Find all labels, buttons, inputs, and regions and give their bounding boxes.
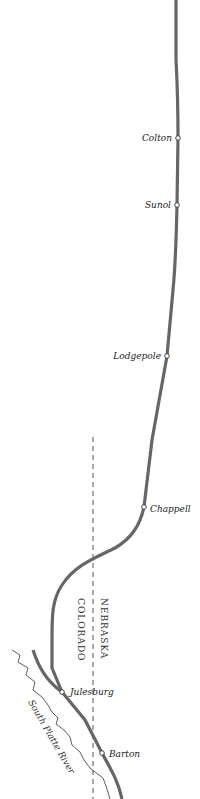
railroad-map: Colton Sunol Lodgepole Chappell Julesbur…: [0, 0, 200, 799]
station-lodgepole[interactable]: Lodgepole: [112, 351, 169, 361]
river-line: [12, 650, 110, 799]
station-marker-icon: [142, 505, 147, 510]
station-marker-icon: [176, 136, 181, 141]
station-colton[interactable]: Colton: [142, 133, 180, 143]
railroad-main-line: [52, 0, 178, 799]
station-chappell[interactable]: Chappell: [142, 504, 191, 514]
town-label-sunol: Sunol: [145, 200, 171, 210]
station-marker-icon: [60, 690, 65, 695]
station-sunol[interactable]: Sunol: [145, 200, 179, 210]
station-marker-icon: [100, 751, 105, 756]
station-julesburg[interactable]: Julesburg: [60, 687, 114, 697]
town-label-chappell: Chappell: [150, 504, 191, 514]
town-label-lodgepole: Lodgepole: [112, 351, 161, 361]
station-marker-icon: [165, 354, 170, 359]
town-label-colton: Colton: [142, 133, 172, 143]
town-label-julesburg: Julesburg: [68, 687, 114, 697]
river-label: South Platte River: [26, 698, 77, 776]
station-marker-icon: [175, 203, 180, 208]
state-label-colorado: Colorado: [76, 598, 86, 662]
state-label-nebraska: Nebraska: [99, 598, 109, 659]
town-label-barton: Barton: [108, 749, 140, 759]
